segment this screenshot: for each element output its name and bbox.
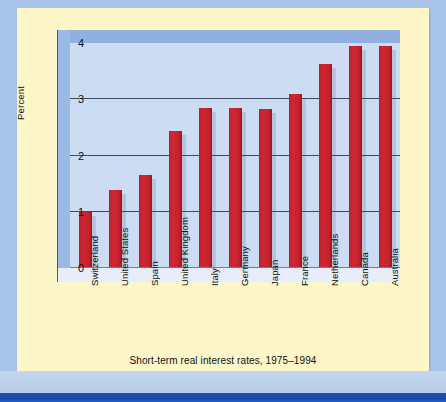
bar: [259, 109, 272, 268]
bar: [139, 175, 152, 268]
y-axis-tick-label: 3: [64, 94, 84, 104]
bar: [349, 46, 362, 268]
x-axis-category-label: France: [299, 256, 310, 286]
bar: [289, 94, 302, 268]
x-axis-category-label: Australia: [389, 248, 400, 286]
x-axis-category-label: Netherlands: [329, 234, 340, 286]
page-bottom-strip: [0, 393, 446, 402]
x-axis-category-label: United Kingdom: [179, 217, 190, 286]
y-axis-tick-label: 0: [64, 263, 84, 273]
plot-wall-top: [57, 30, 400, 43]
x-axis-category-label: Japan: [269, 260, 280, 286]
x-axis-category-label: Switzerland: [89, 236, 100, 286]
x-axis-category-label: Italy: [209, 268, 220, 286]
y-axis-tick-label: 4: [64, 38, 84, 48]
y-axis-title: Percent: [15, 86, 26, 120]
plot-area: [57, 30, 400, 282]
x-axis-category-label: Canada: [359, 252, 370, 286]
x-axis-category-label: United States: [119, 228, 130, 286]
bar: [379, 46, 392, 268]
y-axis-line: [57, 30, 58, 282]
plot-floor: [57, 268, 400, 282]
y-axis-tick-label: 1: [64, 207, 84, 217]
page-lower-band: [0, 371, 446, 393]
bar: [229, 108, 242, 268]
bar: [199, 108, 212, 268]
figure-card: 01234 Percent SwitzerlandUnited StatesSp…: [17, 8, 429, 380]
x-axis-category-label: Spain: [149, 261, 160, 286]
y-axis-tick-label: 2: [64, 151, 84, 161]
figure-caption: Short-term real interest rates, 1975–199…: [17, 355, 429, 366]
x-axis-category-label: Germany: [239, 246, 250, 286]
